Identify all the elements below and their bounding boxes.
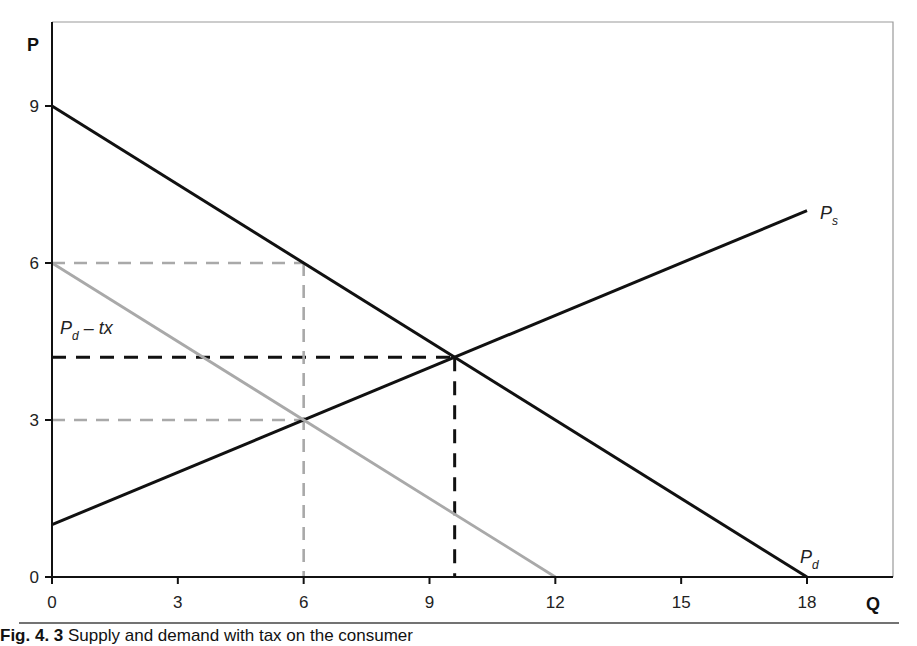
y-tick-label: 6 <box>30 254 39 273</box>
caption-label: Fig. 4. 3 <box>0 626 63 645</box>
x-tick-label: 3 <box>173 593 182 612</box>
series-line-1 <box>52 211 807 525</box>
x-tick-label: 6 <box>299 593 308 612</box>
series-line-0 <box>52 106 807 577</box>
y-tick-label: 3 <box>30 411 39 430</box>
x-tick-label: 9 <box>425 593 434 612</box>
x-tick-label: 15 <box>672 593 691 612</box>
x-tick-label: 0 <box>47 593 56 612</box>
x-tick-label: 18 <box>798 593 817 612</box>
plot-frame <box>52 22 893 577</box>
figure-caption: Fig. 4. 3 Supply and demand with tax on … <box>0 626 413 646</box>
x-axis-title: Q <box>866 594 880 614</box>
curve-label-d: Pd <box>800 547 819 572</box>
curve-label-s: Ps <box>820 203 838 228</box>
x-tick-label: 12 <box>546 593 565 612</box>
y-tick-label: 0 <box>30 568 39 587</box>
curve-label-d-tax: Pd – tx <box>60 318 114 343</box>
y-tick-label: 9 <box>30 97 39 116</box>
y-axis-title: P <box>27 35 39 55</box>
caption-text: Supply and demand with tax on the consum… <box>68 626 413 645</box>
